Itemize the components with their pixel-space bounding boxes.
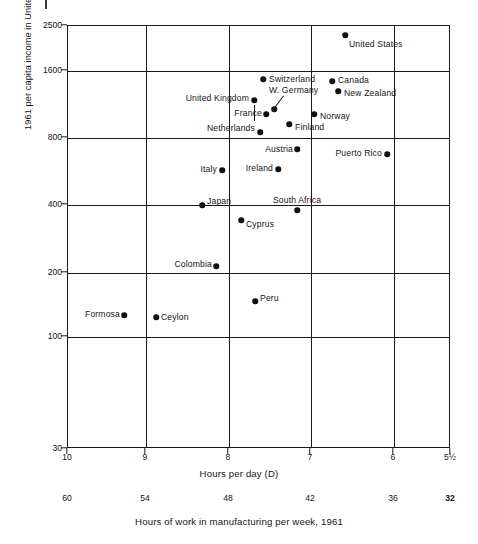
- data-point-label: Peru: [260, 294, 279, 303]
- data-point-marker: [263, 111, 269, 117]
- x-axis-secondary-tick-label: 36: [388, 493, 398, 503]
- plot-area: United StatesSwitzerlandCanadaNew Zealan…: [67, 25, 450, 448]
- y-axis-tick-label: 200: [0, 267, 67, 277]
- x-axis-secondary-tick-label: 60: [62, 493, 72, 503]
- x-axis-tick-mark: [392, 448, 393, 454]
- y-axis-tick-label: 1600: [0, 65, 67, 75]
- data-point-label: Formosa: [85, 310, 120, 319]
- data-point-marker: [329, 78, 335, 84]
- data-point-label: United States: [349, 40, 403, 49]
- data-point-marker: [121, 312, 127, 318]
- data-point-marker: [213, 263, 219, 269]
- data-point-label: New Zealand: [344, 89, 396, 98]
- data-point-label: Ireland: [246, 164, 273, 173]
- x-axis-tick-mark: [227, 448, 228, 454]
- data-point-marker: [153, 314, 159, 320]
- gridline-horizontal-0: [68, 71, 449, 72]
- label-bracket-stub: [254, 105, 255, 121]
- data-point-marker: [311, 111, 317, 117]
- x-axis-tick-mark: [144, 448, 145, 454]
- data-point-label: Canada: [338, 76, 369, 85]
- y-axis-tick-label: 2500: [0, 20, 67, 30]
- x-axis-secondary-tick-label: 32: [445, 493, 455, 503]
- data-point-marker: [384, 151, 390, 157]
- data-point-label: Switzerland: [269, 75, 315, 84]
- data-point-label: Netherlands: [207, 124, 255, 133]
- gridline-horizontal-4: [68, 337, 449, 338]
- data-point-label: Norway: [320, 112, 350, 121]
- data-point-label: Ceylon: [161, 313, 189, 322]
- data-point-label: W. Germany: [269, 86, 318, 95]
- data-point-label: Finland: [295, 123, 324, 132]
- data-point-marker: [294, 146, 300, 152]
- data-point-label: South Africa: [273, 196, 321, 205]
- data-point-label: Puerto Rico: [335, 149, 382, 158]
- data-point-label: Italy: [200, 165, 217, 174]
- data-point-marker: [252, 298, 258, 304]
- y-axis-tick-label: 800: [0, 132, 67, 142]
- x-axis-secondary-tick-label: 42: [305, 493, 315, 503]
- data-point-marker: [286, 121, 292, 127]
- data-point-label: Cyprus: [246, 220, 274, 229]
- x-axis-title: Hours per day (D): [0, 468, 478, 479]
- data-point-label: Japan: [207, 197, 231, 206]
- scatter-plot-figure: 1961 per capita income in United States …: [0, 0, 478, 544]
- data-point-marker: [275, 166, 281, 172]
- gridline-horizontal-2: [68, 205, 449, 206]
- label-leader-line: [274, 95, 284, 108]
- x-axis-tick-mark: [449, 448, 450, 454]
- data-point-marker: [335, 88, 341, 94]
- x-axis-secondary-tick-label: 48: [223, 493, 233, 503]
- data-point-marker: [238, 217, 244, 223]
- y-axis-tick-label: 400: [0, 199, 67, 209]
- scan-artifact-mark: [45, 0, 47, 9]
- data-point-marker: [219, 167, 225, 173]
- x-axis-tick-mark: [66, 448, 67, 454]
- x-axis-tick-mark: [309, 448, 310, 454]
- gridline-horizontal-3: [68, 273, 449, 274]
- gridline-vertical-1: [229, 26, 230, 447]
- data-point-marker: [294, 207, 300, 213]
- x-axis-secondary-title: Hours of work in manufacturing per week,…: [0, 516, 478, 527]
- gridline-vertical-0: [146, 26, 147, 447]
- data-point-marker: [199, 202, 205, 208]
- x-axis-secondary-tick-label: 54: [140, 493, 150, 503]
- y-axis-tick-label: 100: [0, 331, 67, 341]
- data-point-marker: [342, 32, 348, 38]
- data-point-label: Austria: [265, 145, 293, 154]
- y-axis-tick-label: 30: [0, 443, 67, 453]
- data-point-marker: [251, 97, 257, 103]
- gridline-horizontal-1: [68, 138, 449, 139]
- data-point-label: United Kingdom: [186, 94, 249, 103]
- data-point-label: Colombia: [174, 260, 212, 269]
- data-point-marker: [260, 76, 266, 82]
- data-point-label: France: [234, 109, 262, 118]
- data-point-marker: [257, 129, 263, 135]
